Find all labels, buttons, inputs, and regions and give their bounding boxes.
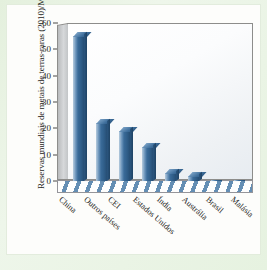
x-axis-labels: ChinaOutros paísesCEIEstados UnidosÍndia… <box>57 195 267 255</box>
bar-slot <box>136 23 159 181</box>
y-tick-label-10: 10 <box>21 150 51 160</box>
bar-cei <box>119 131 130 181</box>
bar-brasil <box>211 180 222 182</box>
plot-floor <box>57 180 253 193</box>
x-label-malásia: Malásia <box>229 195 255 219</box>
bar-china <box>73 36 84 181</box>
plot-area <box>57 23 253 193</box>
x-label-austrália: Austrália <box>180 195 209 222</box>
y-tick-label-60: 60 <box>21 18 51 28</box>
bar-slot <box>182 23 205 181</box>
figure-root: Reservas mundiais de metais de terras-ra… <box>0 0 267 270</box>
x-label-brasil: Brasil <box>204 195 225 215</box>
x-label-china: China <box>57 195 78 215</box>
bar-estados-unidos <box>142 147 153 181</box>
bar-slot <box>113 23 136 181</box>
y-axis-ticks: 0102030405060 <box>21 23 51 193</box>
bar-slot <box>67 23 90 181</box>
y-tick-label-50: 50 <box>21 44 51 54</box>
bar-series <box>67 23 251 181</box>
bar-austrália <box>188 176 199 181</box>
bar-slot <box>159 23 182 181</box>
y-tick-label-20: 20 <box>21 123 51 133</box>
bar-slot <box>228 23 251 181</box>
x-label-cei: CEI <box>106 195 122 211</box>
y-tick-label-30: 30 <box>21 97 51 107</box>
bar-slot <box>90 23 113 181</box>
y-tick-label-0: 0 <box>21 176 51 186</box>
x-label-índia: Índia <box>155 195 174 213</box>
chart-paper: Reservas mundiais de metais de terras-ra… <box>7 5 260 254</box>
bar-slot <box>205 23 228 181</box>
bar-malásia <box>234 180 245 182</box>
bar-índia <box>165 173 176 181</box>
bar-outros-países <box>96 123 107 181</box>
y-tick-label-40: 40 <box>21 71 51 81</box>
